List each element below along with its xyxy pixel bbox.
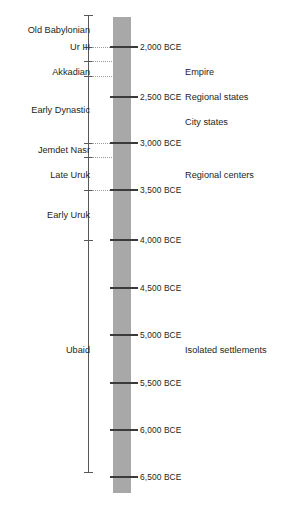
period-label-ubaid: Ubaid	[66, 345, 90, 355]
scale-tick-5500	[110, 382, 138, 384]
period-boundary-tick-6	[84, 240, 93, 241]
period-label-ur-iii: Ur III	[70, 42, 90, 52]
scale-label-4500: 4,500 BCE	[140, 283, 181, 293]
period-label-old-babylonian: Old Babylonian	[28, 25, 90, 35]
scale-tick-6000	[110, 429, 138, 431]
axis-cap-0	[84, 15, 93, 16]
scale-tick-4000	[110, 239, 138, 241]
society-label-isolated-settlements: Isolated settlements	[185, 345, 267, 355]
leader-line-4	[92, 157, 114, 158]
scale-label-6500: 6,500 BCE	[140, 472, 181, 482]
leader-line-2	[92, 76, 114, 77]
scale-tick-3500	[110, 189, 138, 191]
scale-label-5500: 5,500 BCE	[140, 378, 181, 388]
scale-label-5000: 5,000 BCE	[140, 330, 181, 340]
society-label-regional-centers: Regional centers	[185, 170, 254, 180]
leader-line-1	[92, 61, 114, 62]
timeline-figure: 2,000 BCE2,500 BCE3,000 BCE3,500 BCE4,00…	[0, 0, 286, 515]
period-label-late-uruk: Late Uruk	[50, 170, 90, 180]
scale-label-6000: 6,000 BCE	[140, 425, 181, 435]
period-label-jemdet-nasr: Jemdet Nasr	[38, 145, 90, 155]
period-label-early-uruk: Early Uruk	[47, 210, 90, 220]
scale-tick-2500	[110, 96, 138, 98]
time-bar	[113, 17, 131, 493]
scale-tick-3000	[110, 142, 138, 144]
scale-tick-2000	[110, 46, 138, 48]
society-label-city-states: City states	[185, 117, 228, 127]
period-axis-line	[88, 15, 89, 473]
scale-tick-5000	[110, 334, 138, 336]
scale-label-4000: 4,000 BCE	[140, 235, 181, 245]
axis-cap-1	[84, 472, 93, 473]
scale-label-3500: 3,500 BCE	[140, 185, 181, 195]
scale-tick-6500	[110, 476, 138, 478]
period-label-akkadian: Akkadian	[52, 67, 90, 77]
period-label-early-dynastic: Early Dynastic	[31, 105, 90, 115]
society-label-empire: Empire	[185, 67, 214, 77]
scale-label-2500: 2,500 BCE	[140, 92, 181, 102]
scale-label-2000: 2,000 BCE	[140, 42, 181, 52]
scale-label-3000: 3,000 BCE	[140, 138, 181, 148]
society-label-regional-states: Regional states	[185, 92, 248, 102]
scale-tick-4500	[110, 287, 138, 289]
